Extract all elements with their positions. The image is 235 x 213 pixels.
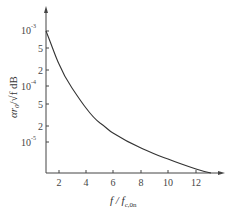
x-axis-label: f / fc,0n — [110, 194, 137, 209]
y-tick-label: 2 — [38, 65, 43, 76]
y-ticks: 10 -3 5 2 10 -4 5 2 10 -5 — [21, 23, 49, 148]
y-tick-exp: -3 — [31, 23, 36, 29]
y-tick-exp: -4 — [31, 79, 36, 85]
y-axis-arrow-icon — [44, 6, 48, 13]
attenuation-curve — [46, 31, 211, 173]
chart: 10 -3 5 2 10 -4 5 2 10 -5 2 4 6 8 10 12 … — [0, 0, 235, 213]
y-tick-label: 2 — [38, 121, 43, 132]
y-tick-label: 10 — [21, 137, 31, 148]
x-tick-label: 2 — [57, 177, 62, 188]
x-tick-label: 10 — [163, 177, 173, 188]
x-tick-label: 6 — [111, 177, 116, 188]
y-tick-exp: -5 — [31, 135, 36, 141]
y-tick-label: 10 — [21, 25, 31, 36]
y-tick-label: 5 — [38, 99, 43, 110]
x-tick-label: 12 — [191, 177, 201, 188]
x-axis-arrow-icon — [218, 171, 225, 175]
x-tick-label: 4 — [84, 177, 89, 188]
x-tick-label: 8 — [139, 177, 144, 188]
y-axis-label: αr0/√f dB — [7, 76, 21, 118]
y-tick-label: 5 — [38, 43, 43, 54]
y-tick-label: 10 — [21, 81, 31, 92]
axes — [44, 6, 225, 175]
